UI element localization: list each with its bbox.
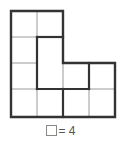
unit-square-icon	[46, 125, 57, 136]
l-shape-figure	[0, 0, 122, 122]
legend: = 4	[0, 124, 122, 138]
legend-value: = 4	[58, 124, 75, 138]
